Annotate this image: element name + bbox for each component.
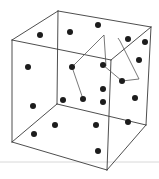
cube-edge [57,104,146,125]
cube-edge [12,142,107,170]
data-point [125,119,131,125]
cube-edge [107,125,146,170]
data-point [80,96,86,102]
data-point [31,131,37,137]
data-point [60,97,66,103]
data-point [67,29,73,35]
connecting-path [103,41,139,81]
cube-edge [12,11,58,40]
data-point [100,99,106,105]
data-point [69,64,75,70]
data-point [100,86,106,92]
data-point [30,103,36,109]
cube-edge [57,11,58,104]
data-point [136,57,142,63]
data-points [25,22,148,154]
cube-edges [12,11,151,170]
data-point [125,36,131,42]
data-point [95,22,101,28]
data-point [52,122,58,128]
data-point [132,95,138,101]
data-point [37,32,43,38]
data-point [25,64,31,70]
data-point [93,122,99,128]
scatter-cube-canvas [0,0,159,179]
cube-edge [107,60,111,170]
data-point [100,62,106,68]
data-point [95,148,101,154]
cube-diagram [0,0,159,179]
cube-edge [58,11,151,27]
data-point [119,78,125,84]
connecting-path [118,38,120,41]
data-point [142,39,148,45]
